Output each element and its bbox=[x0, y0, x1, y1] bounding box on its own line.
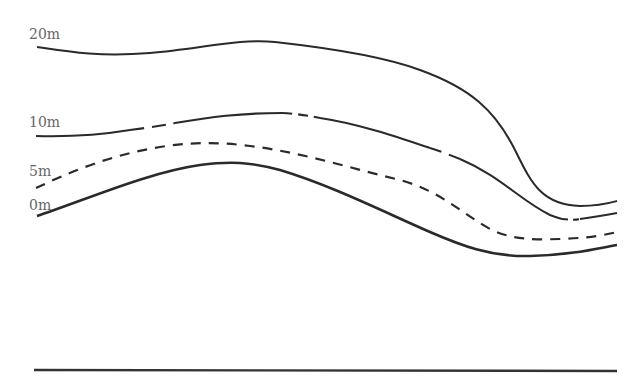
contour-lines bbox=[0, 0, 639, 387]
label-5m: 5m bbox=[29, 164, 51, 178]
contour-diagram: 20m 10m 5m 0m bbox=[0, 0, 639, 387]
contour-line-5m bbox=[36, 143, 617, 239]
contour-line-10m-i bbox=[580, 213, 617, 219]
contour-line-20m bbox=[37, 41, 617, 206]
contour-line-10m-a bbox=[36, 130, 130, 136]
label-20m: 20m bbox=[29, 27, 60, 41]
label-10m: 10m bbox=[29, 115, 60, 129]
contour-line-10m-d bbox=[282, 113, 320, 118]
contour-line-10m-c bbox=[175, 113, 282, 123]
contour-line-10m-f bbox=[430, 148, 460, 159]
contour-line-10m-h bbox=[562, 219, 580, 220]
contour-line-10m-b bbox=[130, 123, 175, 130]
contour-line-10m-g bbox=[460, 159, 562, 219]
contour-line-10m-e bbox=[320, 118, 430, 148]
label-0m: 0m bbox=[29, 198, 51, 212]
baseline bbox=[34, 370, 617, 371]
